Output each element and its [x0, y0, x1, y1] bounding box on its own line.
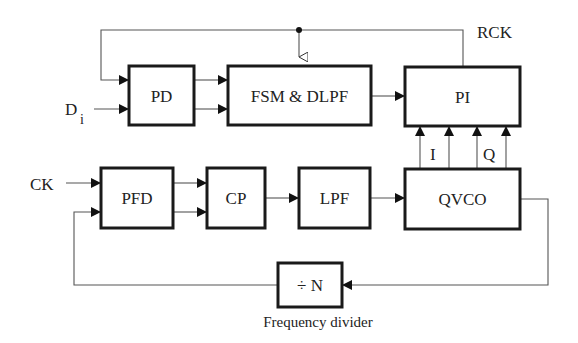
block-cp-label: CP — [226, 189, 247, 208]
block-fsm-dlpf: FSM & DLPF — [228, 66, 371, 125]
block-divider: ÷ N — [278, 263, 342, 307]
block-lpf: LPF — [299, 168, 370, 228]
block-pfd: PFD — [101, 168, 173, 228]
rck-label: RCK — [477, 23, 513, 42]
block-cp: CP — [207, 168, 265, 228]
junction-dot — [296, 27, 302, 33]
q-label: Q — [483, 145, 495, 164]
block-qvco-label: QVCO — [438, 190, 486, 209]
cdr-pll-block-diagram: PD FSM & DLPF PI PFD CP LPF QVCO ÷ N RCK… — [0, 0, 578, 343]
diagram-canvas: PD FSM & DLPF PI PFD CP LPF QVCO ÷ N RCK… — [0, 0, 578, 343]
divider-caption: Frequency divider — [263, 314, 373, 330]
block-pi-label: PI — [455, 88, 470, 107]
block-pi: PI — [405, 67, 520, 126]
i-label: I — [430, 145, 436, 164]
block-pd-label: PD — [151, 87, 173, 106]
data-in-label: D — [65, 100, 77, 119]
block-lpf-label: LPF — [320, 189, 349, 208]
block-fsm-label: FSM & DLPF — [251, 87, 348, 106]
block-qvco: QVCO — [405, 169, 520, 229]
data-in-subscript: i — [80, 112, 84, 127]
block-divider-label: ÷ N — [297, 276, 323, 295]
clock-in-label: CK — [30, 175, 54, 194]
block-pfd-label: PFD — [121, 189, 152, 208]
block-pd: PD — [129, 66, 194, 125]
